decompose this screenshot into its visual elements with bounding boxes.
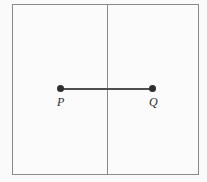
point-p-label: P <box>57 96 64 108</box>
point-q-dot <box>149 85 156 92</box>
segment-pq-line <box>60 88 152 90</box>
point-p-dot <box>57 85 64 92</box>
figure-canvas: P Q <box>0 0 207 182</box>
point-q-label: Q <box>149 96 158 108</box>
